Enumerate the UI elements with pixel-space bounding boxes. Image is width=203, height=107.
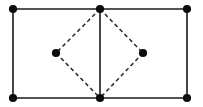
vertex-bottom-left [9, 94, 17, 102]
edge-rhombus-bottom-right [100, 53, 143, 98]
vertex-right-middle [139, 49, 147, 57]
solid-edge-group [13, 9, 187, 98]
edge-rhombus-top-left [56, 9, 100, 53]
vertex-bottom-right [183, 94, 191, 102]
vertex-left-middle [52, 49, 60, 57]
vertex-top-middle [96, 5, 104, 13]
figure-svg [0, 0, 203, 107]
edge-rhombus-top-right [100, 9, 143, 53]
vertex-top-left [9, 5, 17, 13]
edge-rhombus-bottom-left [56, 53, 100, 98]
vertex-top-right [183, 5, 191, 13]
geometric-figure-canvas [0, 0, 203, 107]
vertex-bottom-middle [96, 94, 104, 102]
